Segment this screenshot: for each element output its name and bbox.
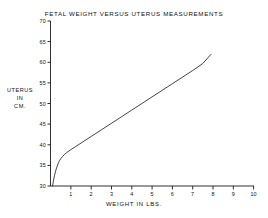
y-tick-label: 65 (30, 39, 46, 45)
x-tick-marks (71, 186, 254, 190)
chart-figure: FETAL WEIGHT VERSUS UTERUS MEASUREMENTS (0, 0, 268, 218)
x-tick-label: 8 (206, 191, 220, 197)
y-tick-label: 30 (30, 183, 46, 189)
y-axis-label: UTERUS IN CM. (5, 86, 35, 110)
y-tick-label: 55 (30, 80, 46, 86)
x-tick-label: 1 (64, 191, 78, 197)
data-series-line (53, 54, 211, 186)
y-tick-label: 45 (30, 121, 46, 127)
x-tick-label: 7 (186, 191, 200, 197)
x-tick-label: 9 (226, 191, 240, 197)
x-tick-label: 4 (125, 191, 139, 197)
x-tick-label: 6 (165, 191, 179, 197)
y-tick-label: 70 (30, 18, 46, 24)
y-tick-label: 60 (30, 59, 46, 65)
x-tick-label: 3 (105, 191, 119, 197)
y-axis-label-line: IN (5, 94, 35, 102)
y-tick-label: 35 (30, 162, 46, 168)
x-tick-label: 10 (247, 191, 261, 197)
y-axis-label-line: CM. (5, 102, 35, 110)
x-axis-label: WEIGHT IN LBS. (0, 201, 268, 207)
y-axis-label-line: UTERUS (5, 86, 35, 94)
y-tick-label: 40 (30, 142, 46, 148)
x-tick-label: 2 (84, 191, 98, 197)
x-tick-label: 5 (145, 191, 159, 197)
